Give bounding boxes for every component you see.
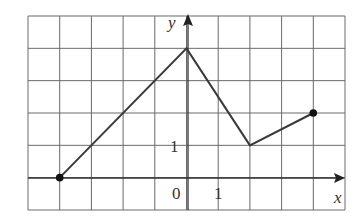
origin-label: 0	[172, 184, 181, 203]
y-tick-label-1: 1	[170, 137, 179, 156]
endpoint-dot	[56, 174, 64, 182]
x-tick-label-1: 1	[214, 184, 223, 203]
y-axis-label: y	[166, 13, 176, 32]
endpoint-dot	[310, 109, 318, 117]
grid	[28, 16, 345, 210]
x-axis-label: x	[333, 188, 342, 207]
chart: y x 0 1 1	[0, 0, 364, 219]
